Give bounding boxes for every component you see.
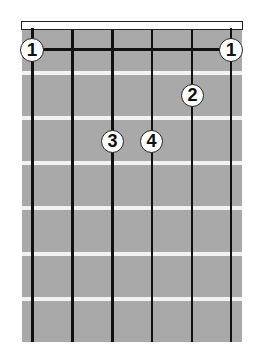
- fret-line-3: [22, 161, 242, 165]
- string-1-stub: [230, 28, 232, 31]
- string-6: [31, 30, 34, 342]
- string-5: [71, 30, 74, 342]
- string-4: [111, 30, 114, 342]
- string-2: [191, 30, 193, 342]
- finger-marker: 1: [20, 38, 44, 62]
- fret-line-4: [22, 206, 242, 210]
- fret-line-1: [22, 71, 242, 75]
- finger-marker: 1: [219, 38, 243, 62]
- string-6-stub: [31, 28, 34, 31]
- finger-marker: 2: [181, 84, 204, 107]
- chord-diagram: 1 1 2 3 4: [0, 0, 256, 363]
- fret-line-6: [22, 297, 242, 301]
- fretboard: [22, 30, 242, 342]
- fret-line-5: [22, 252, 242, 256]
- finger-marker: 3: [101, 130, 124, 153]
- string-1: [230, 30, 232, 342]
- barre-line: [32, 48, 231, 51]
- finger-marker: 4: [140, 130, 163, 153]
- fret-line-2: [22, 116, 242, 120]
- nut: [21, 21, 243, 30]
- string-3: [151, 30, 153, 342]
